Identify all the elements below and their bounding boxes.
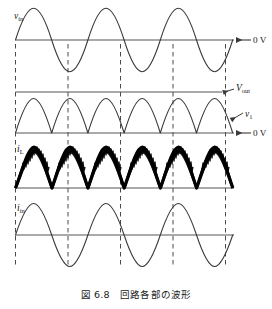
label-zero-volts-mid: 0 V [253, 128, 267, 138]
figure-caption: 図 6.8 回路各部の波形 [0, 287, 272, 301]
label-zero-volts-top: 0 V [253, 35, 267, 45]
waveform-figure: vin 0 V Vout v1 0 V iL [0, 0, 272, 309]
